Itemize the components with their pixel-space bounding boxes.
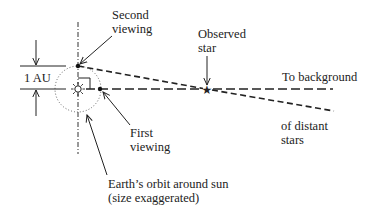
observed-star-label: Observed star bbox=[198, 27, 246, 55]
second-viewing-pointer bbox=[80, 36, 112, 64]
first-viewing-dot bbox=[98, 87, 102, 91]
earth-orbit-label: Earth’s orbit around sun (size exaggerat… bbox=[108, 177, 228, 205]
second-viewing-dot bbox=[76, 64, 80, 68]
first-viewing-label: First viewing bbox=[130, 126, 170, 154]
parallax-diagram: ★ Second viewing Observed star To backgr… bbox=[0, 0, 372, 222]
first-viewing-pointer bbox=[103, 92, 130, 125]
distant-stars-label: of distant stars bbox=[281, 119, 328, 147]
second-viewing-label: Second viewing bbox=[112, 8, 152, 36]
second-line-extension bbox=[212, 90, 334, 111]
au-label: 1 AU bbox=[24, 71, 51, 85]
sun-icon bbox=[71, 82, 85, 96]
second-line-of-sight bbox=[78, 66, 203, 89]
to-background-label: To background bbox=[282, 70, 357, 84]
observed-star-icon: ★ bbox=[202, 83, 213, 97]
orbit-pointer bbox=[87, 115, 107, 175]
